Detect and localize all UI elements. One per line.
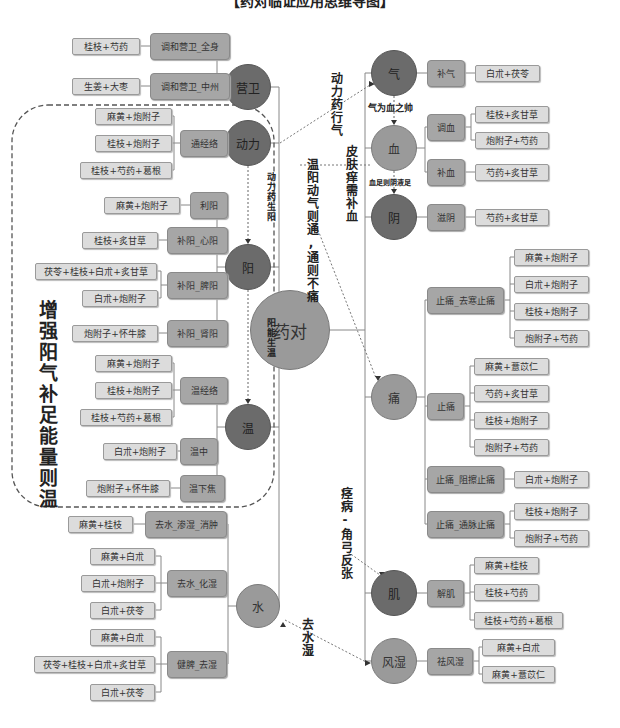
category-box[interactable]: 滋阴 bbox=[427, 204, 465, 231]
category-box[interactable]: 温经络 bbox=[180, 377, 228, 404]
category-box[interactable]: 调和营卫_中州 bbox=[150, 73, 230, 100]
herb-pair-box[interactable]: 炮附子+芍药 bbox=[514, 530, 589, 547]
herb-pair-box[interactable]: 麻黄+桂枝 bbox=[68, 516, 133, 533]
herb-pair-box[interactable]: 麻黄+炮附子 bbox=[95, 355, 172, 372]
herb-pair-box[interactable]: 桂枝+炙甘草 bbox=[475, 106, 549, 123]
herb-pair-box[interactable]: 炮附子+怀牛膝 bbox=[72, 325, 158, 342]
herb-pair-box[interactable]: 麻黄+炮附子 bbox=[104, 197, 180, 214]
annotation-yang-to-wen: 阳能生温 bbox=[265, 318, 278, 358]
herb-pair-box[interactable]: 桂枝+芍药+葛根 bbox=[80, 409, 172, 426]
herb-pair-box[interactable]: 麻黄+桂枝 bbox=[474, 557, 539, 574]
herb-pair-box[interactable]: 桂枝+芍药 bbox=[474, 584, 539, 601]
herb-pair-box[interactable]: 桂枝+炮附子 bbox=[474, 412, 549, 429]
herb-pair-box[interactable]: 芍药+炙甘草 bbox=[475, 209, 549, 226]
category-box[interactable]: 去水_化湿 bbox=[167, 570, 227, 597]
herb-pair-box[interactable]: 麻黄+白朮 bbox=[90, 629, 155, 646]
category-box[interactable]: 补阳_肾阳 bbox=[167, 320, 228, 347]
herb-pair-box[interactable]: 生姜+大枣 bbox=[72, 78, 140, 95]
herb-pair-box[interactable]: 茯苓+桂枝+白朮+炙甘草 bbox=[35, 263, 157, 280]
herb-pair-box[interactable]: 麻黄+薏苡仁 bbox=[482, 666, 555, 683]
node-circle-yang[interactable]: 阳 bbox=[225, 244, 271, 290]
herb-pair-box[interactable]: 麻黄+白朮 bbox=[482, 639, 555, 656]
annotation-qushui: 去水湿 bbox=[298, 618, 315, 657]
node-circle-shui[interactable]: 水 bbox=[236, 584, 280, 628]
category-box[interactable]: 去水_渗湿_消肿 bbox=[145, 511, 227, 538]
node-circle-dongli[interactable]: 动力 bbox=[225, 120, 271, 166]
herb-pair-box[interactable]: 芍药+炙甘草 bbox=[474, 385, 549, 402]
annotation-dongli-to-yang: 动力药生阳 bbox=[265, 172, 278, 222]
category-box[interactable]: 止痛_通脉止痛 bbox=[427, 511, 504, 538]
herb-pair-box[interactable]: 桂枝+炮附子 bbox=[514, 503, 589, 520]
node-circle-tong[interactable]: 痛 bbox=[371, 374, 417, 420]
annotation-xue-to-yin: 血足则阴液足 bbox=[369, 177, 411, 187]
annotation-big-label: 增强阳气补足能量则温 bbox=[37, 300, 57, 510]
herb-pair-box[interactable]: 桂枝+芍药 bbox=[72, 38, 140, 55]
herb-pair-box[interactable]: 炮附子+芍药 bbox=[475, 132, 549, 149]
node-circle-xue[interactable]: 血 bbox=[371, 125, 417, 171]
category-box[interactable]: 调血 bbox=[427, 114, 465, 141]
mind-map-canvas: 【药对临证应用思维导图】 营卫动力阳温水气血阴痛肌风湿药对调和营卫_全身桂枝+芍… bbox=[0, 0, 620, 728]
herb-pair-box[interactable]: 炮附子+芍药 bbox=[514, 330, 589, 347]
annotation-jing: 痉病-角弓反张 bbox=[337, 487, 354, 580]
annotation-qi-to-xue: 气为血之帅 bbox=[368, 101, 413, 114]
herb-pair-box[interactable]: 芍药+炙甘草 bbox=[475, 164, 549, 181]
annotation-pifu: 皮肤痒需补血 bbox=[342, 145, 359, 223]
category-box[interactable]: 调和营卫_全身 bbox=[150, 33, 230, 60]
herb-pair-box[interactable]: 麻黄+炮附子 bbox=[514, 249, 589, 266]
herb-pair-box[interactable]: 桂枝+芍药+葛根 bbox=[474, 612, 563, 629]
herb-pair-box[interactable]: 麻黄+白朮 bbox=[90, 548, 155, 565]
herb-pair-box[interactable]: 白朮+炮附子 bbox=[103, 443, 177, 460]
category-box[interactable]: 健脾_去湿 bbox=[167, 651, 227, 678]
category-box[interactable]: 止痛_阻擦止痛 bbox=[427, 466, 504, 493]
herb-pair-box[interactable]: 桂枝+芍药+葛根 bbox=[80, 162, 172, 179]
node-circle-ji[interactable]: 肌 bbox=[371, 570, 417, 616]
category-box[interactable]: 补阳_脾阳 bbox=[167, 272, 228, 299]
annotation-wenyang: 温阳动气则通,通则不痛 bbox=[303, 158, 320, 303]
herb-pair-box[interactable]: 炮附子+芍药 bbox=[474, 439, 549, 456]
herb-pair-box[interactable]: 桂枝+炙甘草 bbox=[82, 232, 158, 249]
herb-pair-box[interactable]: 白朮+茯苓 bbox=[90, 602, 155, 619]
herb-pair-box[interactable]: 白朮+炮附子 bbox=[82, 290, 158, 307]
herb-pair-box[interactable]: 白朮+炮附子 bbox=[81, 575, 155, 592]
node-circle-yingwei[interactable]: 营卫 bbox=[225, 64, 271, 110]
node-circle-wen[interactable]: 温 bbox=[225, 404, 271, 450]
node-circle-fengshi[interactable]: 风湿 bbox=[371, 638, 417, 684]
herb-pair-box[interactable]: 桂枝+炮附子 bbox=[95, 135, 172, 152]
category-box[interactable]: 利阳 bbox=[190, 192, 228, 219]
category-box[interactable]: 温下焦 bbox=[180, 475, 225, 502]
category-box[interactable]: 止痛_去寒止痛 bbox=[427, 287, 504, 314]
annotation-dongli-to-qi: 动力药行气 bbox=[327, 72, 344, 137]
herb-pair-box[interactable]: 炮附子+怀牛膝 bbox=[86, 480, 170, 497]
category-box[interactable]: 补气 bbox=[427, 60, 465, 87]
category-box[interactable]: 补阳_心阳 bbox=[167, 227, 228, 254]
herb-pair-box[interactable]: 茯苓+桂枝+白朮+炙甘草 bbox=[34, 656, 155, 673]
herb-pair-box[interactable]: 白朮+炮附子 bbox=[514, 471, 589, 488]
category-box[interactable]: 解肌 bbox=[427, 580, 464, 607]
herb-pair-box[interactable]: 白朮+茯苓 bbox=[90, 684, 155, 701]
herb-pair-box[interactable]: 桂枝+炮附子 bbox=[95, 382, 172, 399]
herb-pair-box[interactable]: 桂枝+炮附子 bbox=[514, 303, 589, 320]
category-box[interactable]: 温中 bbox=[180, 438, 218, 465]
category-box[interactable]: 祛风湿 bbox=[427, 648, 473, 675]
herb-pair-box[interactable]: 麻黄+薏苡仁 bbox=[474, 358, 549, 375]
herb-pair-box[interactable]: 白朮+炮附子 bbox=[514, 276, 589, 293]
category-box[interactable]: 补血 bbox=[427, 159, 465, 186]
herb-pair-box[interactable]: 麻黄+炮附子 bbox=[95, 108, 172, 125]
node-circle-qi[interactable]: 气 bbox=[371, 50, 417, 96]
node-circle-yin[interactable]: 阴 bbox=[371, 194, 417, 240]
category-box[interactable]: 止痛 bbox=[427, 393, 464, 420]
herb-pair-box[interactable]: 白朮+茯苓 bbox=[475, 65, 540, 82]
category-box[interactable]: 通经络 bbox=[180, 130, 228, 157]
